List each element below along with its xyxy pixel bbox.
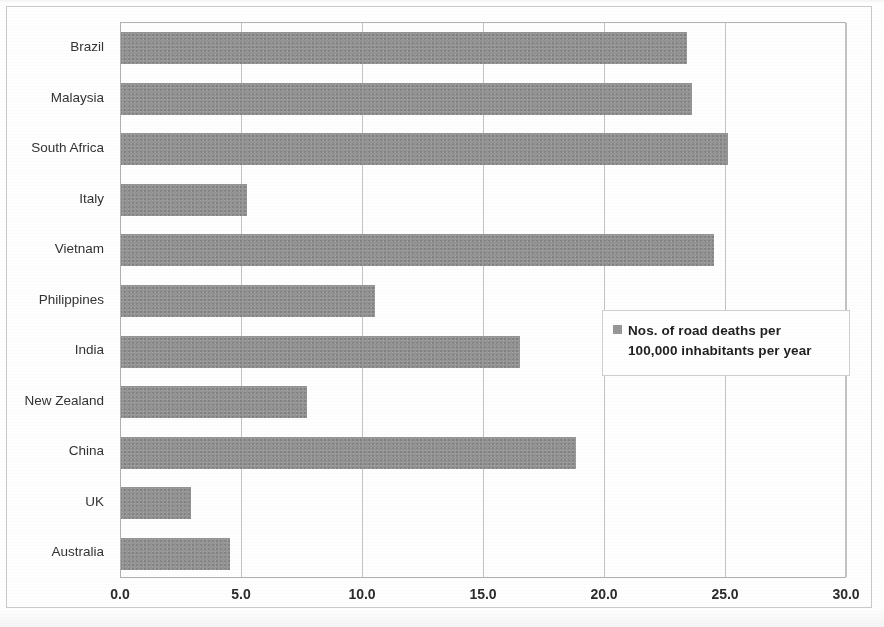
y-axis-label-china: China: [69, 426, 104, 477]
bar-row: [121, 478, 847, 529]
x-tick-30-0: 30.0: [832, 586, 859, 602]
bar-row: [121, 175, 847, 226]
y-axis-label-south-africa: South Africa: [31, 123, 104, 174]
y-axis-label-uk: UK: [85, 477, 104, 528]
bar-philippines: [121, 285, 375, 317]
legend-color-swatch-icon: [613, 325, 622, 334]
bar-italy: [121, 184, 247, 216]
bar-uk: [121, 487, 191, 519]
y-axis-category-labels: BrazilMalaysiaSouth AfricaItalyVietnamPh…: [0, 22, 112, 578]
legend-label-line1: Nos. of road deaths per: [628, 323, 781, 338]
y-axis-label-malaysia: Malaysia: [51, 73, 104, 124]
scan-edge-top: [0, 0, 884, 3]
x-tick-20-0: 20.0: [590, 586, 617, 602]
bar-row: [121, 427, 847, 478]
bar-row: [121, 377, 847, 428]
y-axis-label-vietnam: Vietnam: [55, 224, 104, 275]
y-axis-label-india: India: [75, 325, 104, 376]
x-tick-0-0: 0.0: [110, 586, 129, 602]
y-axis-label-australia: Australia: [51, 527, 104, 578]
bar-south-africa: [121, 133, 728, 165]
legend-label-line2: 100,000 inhabitants per year: [628, 343, 812, 358]
bar-row: [121, 124, 847, 175]
bar-australia: [121, 538, 230, 570]
y-axis-label-brazil: Brazil: [70, 22, 104, 73]
bar-india: [121, 336, 520, 368]
y-axis-label-new-zealand: New Zealand: [24, 376, 104, 427]
x-tick-10-0: 10.0: [348, 586, 375, 602]
y-axis-label-philippines: Philippines: [39, 275, 104, 326]
bar-vietnam: [121, 234, 714, 266]
x-tick-5-0: 5.0: [231, 586, 250, 602]
bar-row: [121, 74, 847, 125]
x-tick-25-0: 25.0: [711, 586, 738, 602]
legend-label: Nos. of road deaths per 100,000 inhabita…: [628, 321, 812, 360]
bar-chart: BrazilMalaysiaSouth AfricaItalyVietnamPh…: [0, 0, 884, 627]
bar-new-zealand: [121, 386, 307, 418]
x-tick-15-0: 15.0: [469, 586, 496, 602]
bar-row: [121, 225, 847, 276]
bar-row: [121, 23, 847, 74]
y-axis-label-italy: Italy: [79, 174, 104, 225]
bar-malaysia: [121, 83, 692, 115]
chart-legend: Nos. of road deaths per 100,000 inhabita…: [602, 310, 850, 376]
bar-china: [121, 437, 576, 469]
bar-brazil: [121, 32, 687, 64]
x-axis-tick-labels: 0.05.010.015.020.025.030.0: [0, 586, 884, 612]
bar-row: [121, 528, 847, 579]
plot-area: [120, 22, 846, 578]
